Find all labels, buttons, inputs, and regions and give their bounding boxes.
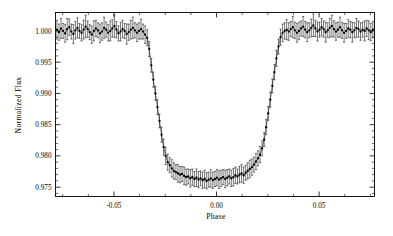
svg-text:0.980: 0.980 xyxy=(35,152,52,160)
svg-text:0.995: 0.995 xyxy=(35,59,52,67)
svg-text:-0.05: -0.05 xyxy=(106,202,121,210)
svg-text:0.00: 0.00 xyxy=(210,202,223,210)
svg-text:0.975: 0.975 xyxy=(35,184,52,192)
svg-text:0.990: 0.990 xyxy=(35,90,52,98)
svg-text:0.05: 0.05 xyxy=(313,202,326,210)
svg-text:1.000: 1.000 xyxy=(35,28,52,36)
figure-canvas: -0.050.000.05 1.0000.9950.9900.9850.9800… xyxy=(0,0,393,236)
transit-light-curve-plot: -0.050.000.05 1.0000.9950.9900.9850.9800… xyxy=(0,0,393,236)
y-axis-title: Normalized Flux xyxy=(14,77,23,134)
svg-text:0.985: 0.985 xyxy=(35,121,52,129)
x-axis-title: Phase xyxy=(206,212,226,221)
